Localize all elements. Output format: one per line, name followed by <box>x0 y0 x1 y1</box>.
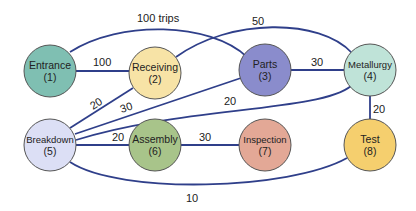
svg-text:Assembly: Assembly <box>132 133 178 145</box>
node-parts: Parts (3) <box>239 44 291 96</box>
node-metallurgy: Metallurgy (4) <box>344 44 396 96</box>
svg-text:Breakdown: Breakdown <box>26 134 74 145</box>
svg-text:(7): (7) <box>259 145 272 157</box>
node-entrance: Entrance (1) <box>24 45 76 97</box>
svg-text:(3): (3) <box>259 70 272 82</box>
edge-breakdown-test <box>70 158 347 184</box>
node-assembly: Assembly (6) <box>129 119 181 171</box>
svg-text:(5): (5) <box>44 145 57 157</box>
node-inspection: Inspection (7) <box>239 119 291 171</box>
edge-label-5-6: 20 <box>112 131 124 143</box>
node-receiving: Receiving (2) <box>129 47 181 99</box>
svg-text:(6): (6) <box>149 145 162 157</box>
svg-text:Receiving: Receiving <box>132 61 178 73</box>
svg-text:Entrance: Entrance <box>29 59 71 71</box>
svg-text:Test: Test <box>360 133 379 145</box>
node-test: Test (8) <box>344 119 396 171</box>
edge-label-3-4: 30 <box>311 56 323 68</box>
svg-text:(1): (1) <box>44 71 57 83</box>
svg-text:Parts: Parts <box>253 58 278 70</box>
svg-text:(2): (2) <box>149 73 162 85</box>
edge-label-2-4: 50 <box>252 15 264 27</box>
edge-label-5-3: 30 <box>118 100 133 115</box>
svg-text:Inspection: Inspection <box>243 134 286 145</box>
edge-label-6-7: 30 <box>199 131 211 143</box>
svg-text:Metallurgy: Metallurgy <box>348 59 392 70</box>
flow-diagram: 100 trips 100 50 30 20 30 20 20 30 20 10… <box>0 0 416 211</box>
svg-text:(8): (8) <box>364 145 377 157</box>
edge-label-5-4: 20 <box>224 95 236 107</box>
edge-label-1-2: 100 <box>93 56 111 68</box>
edge-label-1-3: 100 trips <box>137 12 180 24</box>
edge-label-5-8: 10 <box>186 192 198 204</box>
edge-label-4-8: 20 <box>373 103 385 115</box>
node-breakdown: Breakdown (5) <box>24 119 76 171</box>
svg-text:(4): (4) <box>364 70 377 82</box>
edge-label-5-2: 20 <box>88 95 105 112</box>
